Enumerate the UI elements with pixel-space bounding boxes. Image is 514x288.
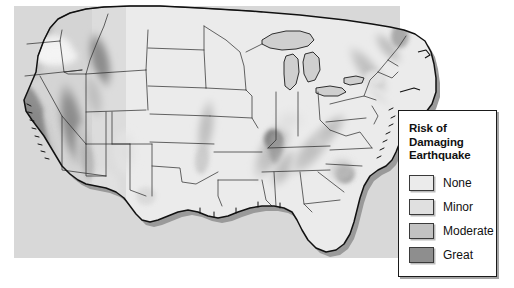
legend-item-none: None [409,172,496,195]
legend-title-line-2: Damaging [409,136,496,150]
legend-label-great: Great [443,247,473,263]
legend-item-moderate: Moderate [409,220,496,243]
legend-swatch-minor [409,199,434,215]
legend-label-none: None [443,175,472,191]
legend-swatch-great [409,247,434,263]
legend-title-line-1: Risk of [409,122,496,136]
earthquake-risk-map-figure: Risk of Damaging Earthquake None Minor M… [0,0,514,288]
legend-label-moderate: Moderate [443,223,494,239]
legend-item-great: Great [409,244,496,267]
legend-title: Risk of Damaging Earthquake [409,122,496,163]
legend-swatch-none [409,175,434,191]
legend-swatch-moderate [409,223,434,239]
legend-label-minor: Minor [443,199,473,215]
legend-item-minor: Minor [409,196,496,219]
legend-title-line-3: Earthquake [409,149,496,163]
map-legend: Risk of Damaging Earthquake None Minor M… [398,110,497,277]
